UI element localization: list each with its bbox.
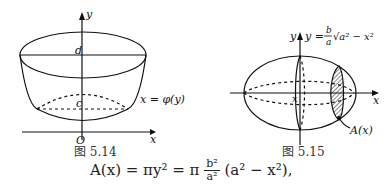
curve-label: x = φ(y) [140, 93, 185, 106]
y-arrow-icon [79, 12, 85, 20]
figure-5-14 [20, 12, 156, 140]
curve-eq-num: b [326, 25, 332, 35]
left-side [20, 55, 37, 109]
formula-fraction: b² a² [204, 158, 219, 183]
d-label: d [75, 44, 82, 57]
caption-5-14: 图 5.14 [74, 142, 117, 159]
y-axis-label-right: y [289, 30, 297, 43]
formula-rhs: (a² − x²), [224, 161, 292, 179]
curve-eq-root: √a² − x² [333, 31, 374, 42]
area-label: A(x) [349, 124, 373, 137]
x-position-label: x [292, 93, 298, 104]
area-formula: A(x) = πy² = π b² a² (a² − x²), [90, 158, 292, 183]
y-arrow-icon [297, 32, 303, 40]
x-axis-label-right: x [373, 94, 380, 107]
x-axis-label: x [150, 133, 157, 146]
cross-section-area [331, 66, 344, 120]
formula-den: a² [204, 171, 219, 183]
curve-eq-lhs: y = [304, 30, 324, 43]
caption-5-15: 图 5.15 [282, 142, 325, 159]
y-axis-label: y [85, 8, 93, 21]
c-label: c [76, 97, 82, 110]
formula-lhs: A(x) = πy² = π [90, 161, 199, 179]
curve-eq-den: a [326, 37, 331, 47]
